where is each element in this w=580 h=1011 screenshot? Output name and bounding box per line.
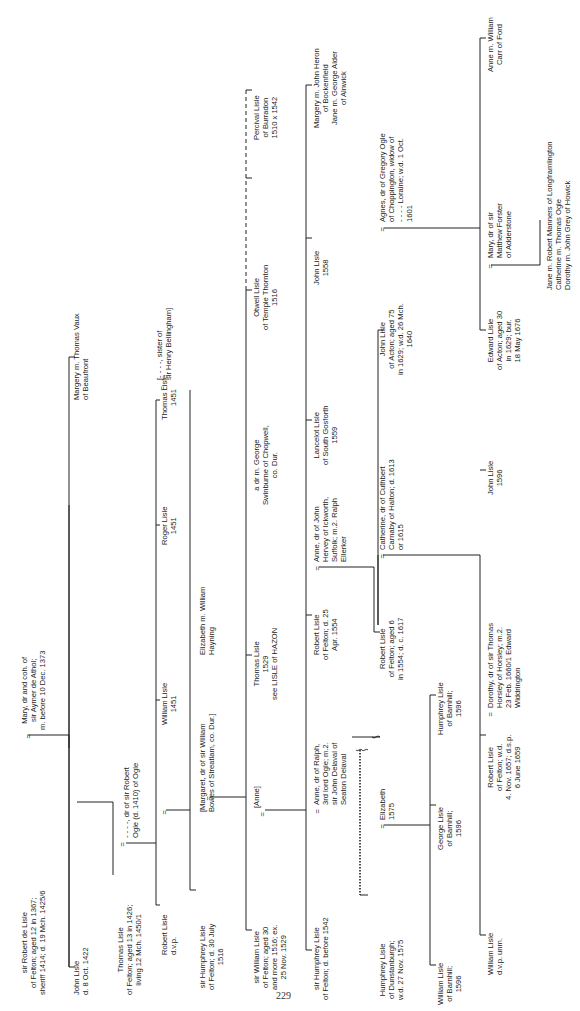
person-william-dvp: William Lisle d.v.p. unm. xyxy=(486,933,504,975)
person-robert-1657: Robert Lisle of Felton; w.d. 4. Nov. 165… xyxy=(486,735,522,800)
person-elizabeth-hayning: Elizabeth m. William Hayning xyxy=(198,587,216,655)
person-thomas-1529: Thomas Lisle 1529 see LISLE of HAZON xyxy=(252,628,279,700)
marriage-sign: = xyxy=(118,842,127,847)
person-robert-de-lisle: sir Robert de Lisle of Felton; aged 12 i… xyxy=(20,890,47,995)
person-daughters-edward: Jane m. Robert Manners of Longframlingto… xyxy=(545,141,572,290)
person-catherine-carnaby: Catherine, dr of Cuthbert Carnaby of Hal… xyxy=(378,459,405,550)
person-john-1558: John Lisle 1558 xyxy=(312,251,330,285)
person-robert-dvp: Robert Lisle d.v.p. xyxy=(160,914,178,955)
person-anne-ogle: Anne, dr of Ralph, 3rd lord Ogle; m.2. s… xyxy=(312,742,348,805)
person-thomas-1451: Thomas Lisle 1451 xyxy=(160,375,178,420)
person-thomas-1426: Thomas Lisle of Felton; aged 13 in 1426;… xyxy=(116,905,143,995)
person-ogle-daughter: - - - -, dr of sir Robert Ogle (d. 1410)… xyxy=(122,763,140,838)
person-john-acton: John Lisle of Acton; aged 75 in 1629; w.… xyxy=(378,303,414,375)
marriage-sign: = xyxy=(204,796,213,801)
marriage-sign: = xyxy=(313,566,322,571)
person-anne-hervey: Anne, dr of John Hervey of Ickworth, Suf… xyxy=(312,497,348,562)
person-agnes-ogle: Agnes, dr of Gregory Ogle of Choppington… xyxy=(378,133,414,222)
page-number: 229 xyxy=(276,990,291,1001)
person-mary-forster: Mary, dr of sir Matthew Forster of Adder… xyxy=(486,203,513,258)
person-humphrey-barnhill: Humphrey Lisle of Barnhill; 1596 xyxy=(436,682,463,735)
person-margery-heron: Margery m. John Heron of Bockenfield Jan… xyxy=(312,48,348,128)
marriage-sign: = xyxy=(486,264,495,269)
person-daughter-swinburne: a dr m. George Swinburne of Chopwell, co… xyxy=(252,425,279,505)
person-edward-acton: Edward Lisle of Acton; aged 30 in 1629; … xyxy=(486,311,522,370)
marriage-sign: = xyxy=(378,554,387,559)
person-humphrey-1542: sir Humphrey Lisle of Felton; d. before … xyxy=(312,917,330,1000)
pedigree-page: sir Robert de Lisle of Felton; aged 12 i… xyxy=(0,0,580,1011)
person-anne-carr: Anne m. William Carr of Ford xyxy=(486,17,504,72)
marriage-sign: = xyxy=(486,712,495,717)
person-elizabeth-1575: Elizabeth 1575 xyxy=(378,789,396,820)
person-humphrey-1516: sir Humphrey Lisle of Felton; d. 30 July… xyxy=(198,924,225,990)
person-robert-1554: Robert Lisle of Felton; d. 25 Apr. 1554 xyxy=(312,609,339,660)
person-george-barnhill: George Lisle of Barnhill; 1596 xyxy=(436,807,463,850)
person-mary-athol: Mary, dr and coh. of sir Aymer de Athol;… xyxy=(20,651,47,730)
marriage-sign: = xyxy=(378,227,387,232)
person-bellingham-sister: [- - - -, sister of sir Henry Bellingham… xyxy=(155,308,173,380)
pedigree-lines xyxy=(0,0,580,1011)
person-john-1596: John Lisle 1596 xyxy=(486,461,504,495)
marriage-sign: = xyxy=(313,809,322,814)
person-robert-1617: Robert Lisle of Felton; aged 6 in 1554; … xyxy=(378,618,405,681)
marriage-sign: = xyxy=(258,812,267,817)
marriage-sign: = xyxy=(378,824,387,829)
person-dorothy-horsley: Dorothy, dr of sir Thomas Horsley of Hor… xyxy=(486,623,522,708)
person-roger-1451: Roger Lisle 1451 xyxy=(160,507,178,545)
person-humphrey-dunstanburgh: Humphrey Lisle of Dunstanburgh; w.d. 27 … xyxy=(378,940,405,1000)
person-margery-vaux: Margery m. Thomas Vaux of Beaufront xyxy=(72,313,90,400)
person-anne-bracket: [Anne] xyxy=(252,786,261,808)
person-john-1422: John Lisle d. 8 Oct. 1422 xyxy=(72,947,90,995)
marriage-sign: = xyxy=(160,810,169,815)
person-william-1451: William Lisle 1451 xyxy=(160,683,178,725)
marriage-sign: = xyxy=(158,386,167,391)
marriage-sign: = xyxy=(24,734,33,739)
person-william-barnhill: William Lisle of Barnhill; 1596 xyxy=(436,963,463,1005)
person-lancelot: Lancelot Lisle of South Gosforth 1559 xyxy=(312,405,339,465)
person-percival: Percival Lisle of Burradon 1510 x 1542 xyxy=(252,95,279,140)
person-otwell: Otwell Lisle of Temple Thornton 1516 xyxy=(252,265,279,330)
person-william-1529: sir William Lisle of Felton; aged 30 and… xyxy=(252,925,288,990)
